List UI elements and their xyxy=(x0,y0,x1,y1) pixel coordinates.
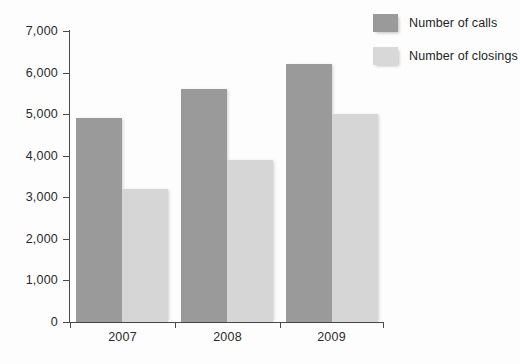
y-tick-label-2000: 2,000 xyxy=(26,233,58,246)
x-tick-right xyxy=(383,322,384,328)
y-tick-3000 xyxy=(63,197,70,198)
x-tick-label-2007: 2007 xyxy=(70,331,175,344)
legend-swatch-closings-icon xyxy=(373,47,398,65)
y-tick-4000 xyxy=(63,156,70,157)
y-tick-label-4000: 4,000 xyxy=(26,150,58,163)
y-tick-5000 xyxy=(63,114,70,115)
bar-2007-closings xyxy=(122,189,168,322)
y-tick-label-1000: 1,000 xyxy=(26,274,58,287)
x-tick-label-2008: 2008 xyxy=(175,331,280,344)
y-tick-2000 xyxy=(63,239,70,240)
x-tick-label-2009: 2009 xyxy=(280,331,383,344)
bar-chart: 7,000 6,000 5,000 4,000 3,000 2,000 1,00… xyxy=(0,0,520,364)
legend-label-calls: Number of calls xyxy=(409,16,497,30)
y-tick-1000 xyxy=(63,280,70,281)
x-tick-left xyxy=(70,322,71,328)
y-tick-6000 xyxy=(63,73,70,74)
y-tick-label-7000: 7,000 xyxy=(26,25,58,38)
bar-2009-closings xyxy=(332,114,378,322)
legend-item-closings: Number of closings xyxy=(373,47,518,65)
y-tick-label-3000: 3,000 xyxy=(26,191,58,204)
x-tick-1 xyxy=(175,322,176,328)
legend-item-calls: Number of calls xyxy=(373,14,518,32)
y-tick-7000 xyxy=(63,31,70,32)
x-axis-line xyxy=(69,322,384,323)
legend-swatch-calls-icon xyxy=(373,14,398,32)
chart-legend: Number of calls Number of closings xyxy=(373,14,518,80)
plot-area xyxy=(70,31,383,322)
bar-2008-closings xyxy=(227,160,273,322)
bar-2009-calls xyxy=(286,64,332,322)
y-tick-label-5000: 5,000 xyxy=(26,108,58,121)
legend-label-closings: Number of closings xyxy=(409,49,518,63)
y-tick-0 xyxy=(63,322,70,323)
y-tick-label-0: 0 xyxy=(51,316,58,329)
x-tick-2 xyxy=(280,322,281,328)
y-tick-label-6000: 6,000 xyxy=(26,67,58,80)
bar-2008-calls xyxy=(181,89,227,322)
bar-2007-calls xyxy=(76,118,122,322)
